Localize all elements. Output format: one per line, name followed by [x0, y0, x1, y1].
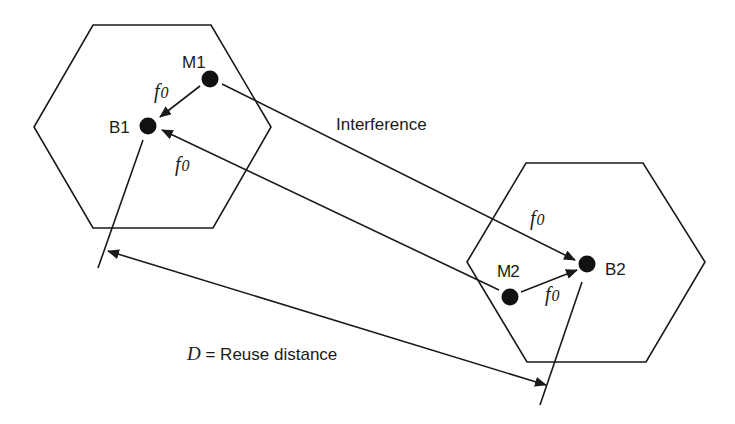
- link-m2-b1-interference: [162, 130, 499, 290]
- freq-sub: 0: [161, 84, 169, 101]
- freq-label-m2-b1: f0: [175, 153, 190, 176]
- freq-label-m1-b1: f0: [154, 80, 169, 103]
- reuse-distance-arrow: [108, 251, 546, 385]
- reuse-distance-diagram: M1 B1 M2 B2 Interference f0 f0 f0 f0 D =…: [0, 0, 735, 424]
- freq-label-m2-b2: f0: [545, 283, 560, 306]
- label-m2: M2: [497, 262, 519, 281]
- mobile-m1-dot: [202, 71, 219, 88]
- base-b1-dot: [140, 118, 157, 135]
- link-m1-b2-interference: [222, 84, 575, 260]
- label-m1: M1: [182, 53, 206, 72]
- distance-variable: D: [186, 343, 201, 364]
- freq-sub: 0: [182, 157, 190, 174]
- freq-sub: 0: [552, 287, 560, 304]
- b1-distance-tick: [98, 140, 143, 268]
- label-interference: Interference: [336, 115, 427, 134]
- base-b2-dot: [579, 256, 596, 273]
- label-b2: B2: [605, 260, 626, 279]
- freq-label-m1-b2: f0: [530, 207, 545, 230]
- distance-text: = Reuse distance: [201, 345, 338, 364]
- mobile-m2-dot: [502, 289, 519, 306]
- label-reuse-distance: D = Reuse distance: [186, 343, 337, 364]
- label-b1: B1: [109, 118, 130, 137]
- freq-sub: 0: [537, 211, 545, 228]
